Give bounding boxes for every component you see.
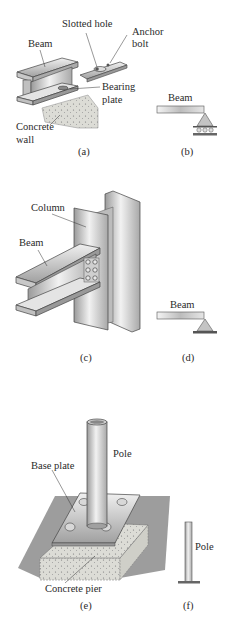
label-anchor-bolt-line1: Anchor xyxy=(132,26,164,38)
label-concrete-wall-line1: Concrete xyxy=(16,121,54,133)
label-beam-c: Beam xyxy=(19,237,44,249)
label-beam-a: Beam xyxy=(28,38,53,50)
caption-d: (d) xyxy=(182,352,194,363)
panel-b-drawing xyxy=(157,106,217,136)
label-bearing-plate-line2: plate xyxy=(102,94,122,106)
caption-c: (c) xyxy=(80,352,92,363)
label-bearing-plate-line1: Bearing xyxy=(102,81,135,93)
label-concrete-pier: Concrete pier xyxy=(45,583,102,595)
label-beam-b: Beam xyxy=(168,92,193,104)
caption-e: (e) xyxy=(80,600,92,611)
caption-a: (a) xyxy=(78,146,90,157)
label-pole-e: Pole xyxy=(113,448,132,460)
label-anchor-bolt-line2: bolt xyxy=(132,38,148,50)
panel-d-drawing xyxy=(157,312,217,334)
caption-b: (b) xyxy=(181,146,193,157)
label-concrete-wall-line2: wall xyxy=(16,134,34,146)
caption-f: (f) xyxy=(183,600,194,611)
label-pole-f: Pole xyxy=(195,541,214,553)
label-slotted-hole: Slotted hole xyxy=(62,18,112,30)
label-column: Column xyxy=(31,202,65,214)
panel-e-drawing xyxy=(18,419,170,583)
label-base-plate: Base plate xyxy=(31,460,74,472)
label-beam-d: Beam xyxy=(170,299,195,311)
